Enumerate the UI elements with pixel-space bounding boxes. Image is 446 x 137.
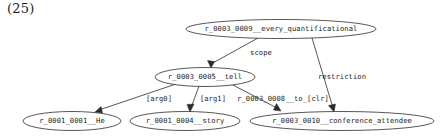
edge-to-clr: r_0003_0008__to_[clr] [231,84,329,111]
edge-arg1: [arg1] [187,86,226,112]
edge-arg1-label: [arg1] [200,94,226,103]
dependency-graph: scope restriction [arg0] [arg1] r_0003_0… [0,0,446,137]
edge-restriction-arrowhead [329,104,336,112]
figure-container: (25) scope restriction [arg0] [arg1] [0,0,446,137]
edge-scope-arrowhead [208,61,215,69]
node-tell[interactable]: r_0003_0005__tell [155,68,255,87]
edge-restriction-label: restriction [318,72,366,81]
edge-arg0-label: [arg0] [146,94,172,103]
node-he[interactable]: r_0001_0001__He [23,112,121,131]
edge-to-clr-label: r_0003_0008__to_[clr] [237,94,329,103]
edge-scope-label: scope [250,48,272,57]
node-story[interactable]: r_0001_0004__story [130,112,240,131]
node-tell-label: r_0003_0005__tell [168,72,242,81]
node-every-quantificational-label: r_0003_0009__every_quantificational [205,24,358,33]
edge-to-clr-arrowhead [274,104,282,112]
edge-arg0: [arg0] [95,84,176,113]
node-story-label: r_0001_0004__story [146,116,225,125]
edge-arg1-arrowhead [187,104,194,112]
node-he-label: r_0001_0001__He [39,116,105,125]
node-every-quantificational[interactable]: r_0003_0009__every_quantificational [186,20,376,39]
edge-arg0-arrowhead [95,107,103,114]
node-conference-attendee[interactable]: r_0003_0010__conference_attendee [250,112,434,131]
edge-scope: scope [208,38,272,68]
node-conference-attendee-label: r_0003_0010__conference_attendee [272,116,412,125]
